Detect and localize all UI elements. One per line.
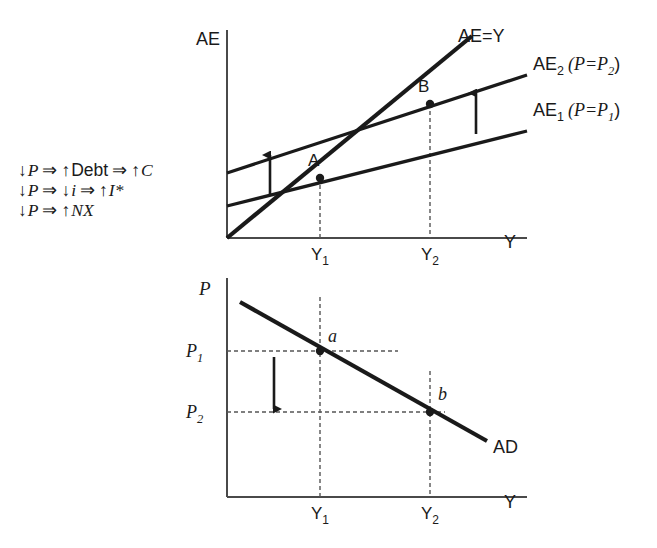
lower-point-a-label: a xyxy=(328,326,337,346)
upper-xtick-y1: Y1 xyxy=(311,245,329,268)
label-ae-equals-y: AE=Y xyxy=(458,26,505,46)
label-ae1-base: AE xyxy=(533,100,557,120)
lower-point-a-marker xyxy=(316,347,324,355)
upper-y-axis-label: AE xyxy=(196,29,220,49)
causal-chain-line-3: ↓P⇒↑NX xyxy=(18,200,95,220)
label-ae1-paren-close: ) xyxy=(614,100,620,120)
label-ae2-paren: (P=P xyxy=(568,54,608,75)
lower-ytick-p2-sub: 2 xyxy=(197,412,203,426)
lower-y-axis-label: P xyxy=(198,278,211,299)
label-ae1-sub: 1 xyxy=(557,110,564,124)
label-ae2-paren-close: ) xyxy=(614,54,620,74)
label-ae2-sub: 2 xyxy=(557,64,564,78)
diagram-canvas: ↓P⇒↑Debt⇒↑C ↓P⇒↓i⇒↑I* ↓P⇒↑NX xyxy=(0,0,657,548)
lower-xtick-y2: Y2 xyxy=(421,504,439,527)
label-ae2-base: AE xyxy=(533,54,557,74)
lower-ytick-p1-base: P xyxy=(185,341,197,361)
lower-ytick-p2-base: P xyxy=(185,402,197,422)
upper-point-a-label: A xyxy=(308,151,320,170)
lower-xtick-y2-sub: 2 xyxy=(432,513,439,527)
label-ae1: AE1(P=P1) xyxy=(533,100,620,124)
lower-xtick-y1-base: Y xyxy=(311,504,322,523)
lower-ytick-p2: P2 xyxy=(185,402,203,426)
line-ae2 xyxy=(227,75,527,173)
causal-chain-line-2: ↓P⇒↓i⇒↑I* xyxy=(18,180,124,200)
lower-ytick-p1-sub: 1 xyxy=(197,351,203,365)
upper-xtick-y2-sub: 2 xyxy=(432,254,439,268)
label-ae1-paren: (P=P xyxy=(568,100,608,121)
label-ae2: AE2(P=P2) xyxy=(533,54,620,78)
line-ad xyxy=(240,302,487,441)
label-ad: AD xyxy=(493,437,518,457)
lower-point-b-marker xyxy=(426,408,434,416)
upper-xtick-y1-sub: 1 xyxy=(322,254,329,268)
causal-chain-line-1: ↓P⇒↑Debt⇒↑C xyxy=(18,160,153,180)
line-ae-equals-y xyxy=(227,36,472,238)
ae-ad-diagram: ↓P⇒↑Debt⇒↑C ↓P⇒↓i⇒↑I* ↓P⇒↑NX xyxy=(0,0,657,548)
lower-x-axis-label: Y xyxy=(504,492,516,512)
upper-panel-aggregate-expenditure: AE Y Y1 Y2 A B AE=Y AE2(P=P2) AE1(P=P1) xyxy=(196,26,620,268)
upper-xtick-y1-base: Y xyxy=(311,245,322,264)
lower-point-b-label: b xyxy=(438,384,447,404)
upper-point-b-marker xyxy=(426,100,434,108)
lower-ytick-p1: P1 xyxy=(185,341,203,365)
upper-x-axis-label: Y xyxy=(504,232,516,252)
lower-xtick-y1: Y1 xyxy=(311,504,329,527)
upper-point-a-marker xyxy=(316,174,324,182)
lower-panel-aggregate-demand: P Y P1 P2 Y1 Y2 a b AD xyxy=(185,278,527,527)
upper-xtick-y2: Y2 xyxy=(421,245,439,268)
lower-xtick-y2-base: Y xyxy=(421,504,432,523)
causal-chain-annotations: ↓P⇒↑Debt⇒↑C ↓P⇒↓i⇒↑I* ↓P⇒↑NX xyxy=(18,160,153,220)
upper-xtick-y2-base: Y xyxy=(421,245,432,264)
lower-xtick-y1-sub: 1 xyxy=(322,513,329,527)
upper-point-b-label: B xyxy=(418,77,429,96)
line-ae1 xyxy=(227,131,527,206)
